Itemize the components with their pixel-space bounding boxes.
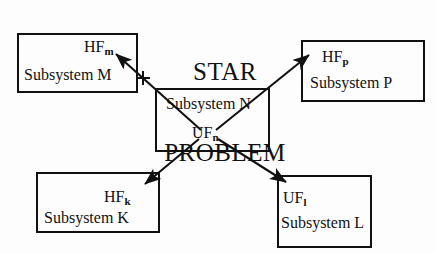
node-l-flow-letters: UF <box>283 189 303 206</box>
node-l-flow-subscript: l <box>303 196 306 208</box>
node-k-flow-letters: HF <box>104 188 124 205</box>
node-p-name: Subsystem P <box>310 74 392 91</box>
node-p-flow-subscript: p <box>342 55 348 67</box>
node-k-name: Subsystem K <box>44 209 129 226</box>
node-m-flow-label: HFm <box>84 38 114 57</box>
node-k-flow-label: HFk <box>104 188 131 207</box>
node-m-name: Subsystem M <box>24 66 112 83</box>
node-n-name: Subsystem N <box>166 95 251 112</box>
node-box-p[interactable] <box>301 40 425 102</box>
node-box-m[interactable] <box>17 33 138 93</box>
node-m-flow-letters: HF <box>84 38 104 55</box>
diagram-title-line-2: PROBLEM <box>150 139 300 166</box>
node-l-flow-label: UFl <box>283 189 307 208</box>
node-p-flow-label: HFp <box>322 48 349 67</box>
diagram-title: STAR PROBLEM <box>150 4 300 220</box>
node-n-flow-label: UFn <box>192 124 219 143</box>
node-k-flow-subscript: k <box>124 195 130 207</box>
node-l-name: Subsystem L <box>281 214 364 231</box>
node-n-flow-subscript: n <box>212 131 218 143</box>
star-problem-diagram: STAR PROBLEM HFm Subsystem M HFp Subsy <box>0 0 436 253</box>
diagram-title-line-1: STAR <box>150 58 300 85</box>
node-m-flow-subscript: m <box>104 45 113 57</box>
node-n-flow-letters: UF <box>192 124 212 141</box>
node-p-flow-letters: HF <box>322 48 342 65</box>
